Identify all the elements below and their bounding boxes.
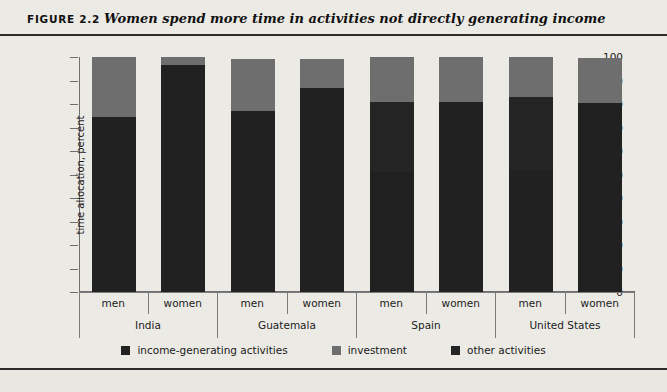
bar-guatemala-men[interactable] bbox=[231, 59, 275, 292]
y-axis-tick bbox=[70, 128, 78, 129]
segment-income-generating bbox=[231, 111, 275, 292]
figure-title: FIGURE 2.2 Women spend more time in acti… bbox=[27, 11, 605, 26]
legend-item[interactable]: income-generating activities bbox=[121, 344, 287, 356]
category-label-text: women bbox=[427, 297, 496, 309]
category-axis: menwomenmenwomenmenwomenmenwomenIndiaGua… bbox=[79, 292, 635, 338]
bar-india-women[interactable] bbox=[161, 57, 205, 292]
category-label-text: women bbox=[149, 297, 218, 309]
segment-investment bbox=[578, 58, 622, 103]
segment-investment bbox=[370, 57, 414, 102]
y-axis-tick bbox=[70, 57, 78, 58]
y-axis-tick bbox=[70, 245, 78, 246]
bar-spain-men[interactable] bbox=[370, 57, 414, 292]
segment-investment bbox=[92, 57, 136, 117]
bar-united-states-men[interactable] bbox=[509, 57, 553, 292]
bar-guatemala-women[interactable] bbox=[300, 59, 344, 292]
category-label-text: women bbox=[566, 297, 635, 309]
legend-label: income-generating activities bbox=[137, 344, 287, 356]
y-axis-tick bbox=[70, 222, 78, 223]
legend: income-generating activitiesinvestmentot… bbox=[0, 339, 667, 361]
figure-container: FIGURE 2.2 Women spend more time in acti… bbox=[0, 0, 667, 392]
category-label-women: women bbox=[427, 292, 497, 314]
category-label-text: men bbox=[357, 297, 426, 309]
chart-area: time allocation, percent 010203040506070… bbox=[0, 36, 667, 368]
y-axis-tick bbox=[70, 151, 78, 152]
bar-united-states-women[interactable] bbox=[578, 58, 622, 292]
segment-income-generating bbox=[161, 65, 205, 292]
category-label-men: men bbox=[218, 292, 288, 314]
y-axis-tick bbox=[70, 175, 78, 176]
segment-investment bbox=[509, 57, 553, 97]
category-label-men: men bbox=[496, 292, 566, 314]
legend-swatch-icon bbox=[332, 346, 341, 355]
y-axis-tick bbox=[70, 292, 78, 293]
group-label-united-states: United States bbox=[496, 314, 635, 338]
figure-title-bar: FIGURE 2.2 Women spend more time in acti… bbox=[0, 0, 667, 34]
group-label-text: India bbox=[79, 319, 217, 331]
y-axis-tick bbox=[70, 104, 78, 105]
legend-item[interactable]: other activities bbox=[451, 344, 546, 356]
category-label-women: women bbox=[288, 292, 358, 314]
segment-income-generating bbox=[92, 117, 136, 292]
category-label-men: men bbox=[357, 292, 427, 314]
y-axis-tick bbox=[70, 81, 78, 82]
segment-income-generating bbox=[509, 170, 553, 292]
group-label-text: United States bbox=[496, 319, 634, 331]
category-label-women: women bbox=[149, 292, 219, 314]
segment-other-activities bbox=[509, 96, 553, 170]
category-label-women: women bbox=[566, 292, 636, 314]
bar-spain-women[interactable] bbox=[439, 57, 483, 292]
group-label-spain: Spain bbox=[357, 314, 496, 338]
segment-investment bbox=[300, 59, 344, 87]
segment-other-activities bbox=[370, 101, 414, 173]
legend-label: investment bbox=[348, 344, 407, 356]
segment-income-generating bbox=[439, 102, 483, 292]
segment-investment bbox=[231, 59, 275, 111]
legend-item[interactable]: investment bbox=[332, 344, 407, 356]
legend-label: other activities bbox=[467, 344, 546, 356]
y-axis-tick bbox=[70, 269, 78, 270]
category-label-text: women bbox=[288, 297, 357, 309]
segment-income-generating bbox=[578, 103, 622, 292]
group-label-text: Guatemala bbox=[218, 319, 356, 331]
y-axis-tick bbox=[70, 198, 78, 199]
category-label-men: men bbox=[79, 292, 149, 314]
category-label-text: men bbox=[218, 297, 287, 309]
figure-footer bbox=[0, 370, 667, 392]
legend-swatch-icon bbox=[451, 346, 460, 355]
segment-investment bbox=[439, 57, 483, 102]
category-label-text: men bbox=[496, 297, 565, 309]
group-label-guatemala: Guatemala bbox=[218, 314, 357, 338]
segment-investment bbox=[161, 57, 205, 65]
bar-india-men[interactable] bbox=[92, 57, 136, 292]
group-label-text: Spain bbox=[357, 319, 495, 331]
legend-swatch-icon bbox=[121, 346, 130, 355]
group-label-india: India bbox=[79, 314, 218, 338]
figure-number: FIGURE 2.2 bbox=[27, 13, 100, 25]
category-label-text: men bbox=[79, 297, 148, 309]
segment-income-generating bbox=[300, 88, 344, 292]
segment-income-generating bbox=[370, 172, 414, 292]
figure-title-text: Women spend more time in activities not … bbox=[104, 11, 605, 26]
plot-region: time allocation, percent 010203040506070… bbox=[79, 57, 635, 292]
